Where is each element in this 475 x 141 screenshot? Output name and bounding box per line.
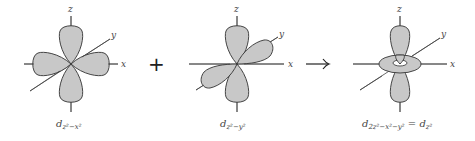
orbital-dz2-x2: z x y	[24, 4, 126, 112]
orbital-dz2-y2: z x y	[189, 4, 293, 112]
y-label: y	[110, 30, 117, 40]
arrow-operator	[306, 59, 329, 69]
z-label: z	[233, 4, 239, 14]
z-label: z	[396, 4, 402, 14]
caption-dz2-y2: dz²−y²	[220, 118, 246, 131]
y-label: y	[278, 29, 285, 39]
plus-operator: +	[148, 52, 165, 76]
y-label: y	[440, 29, 447, 39]
z-label: z	[67, 4, 73, 14]
caption-dz2-x2: dz²−x²	[56, 118, 82, 131]
x-label: x	[121, 59, 126, 69]
caption-dz2: d2z²−x²−y² = dz²	[362, 118, 432, 131]
x-label: x	[450, 59, 455, 69]
x-label: x	[288, 59, 293, 69]
orbital-dz2: z x y	[353, 4, 455, 112]
